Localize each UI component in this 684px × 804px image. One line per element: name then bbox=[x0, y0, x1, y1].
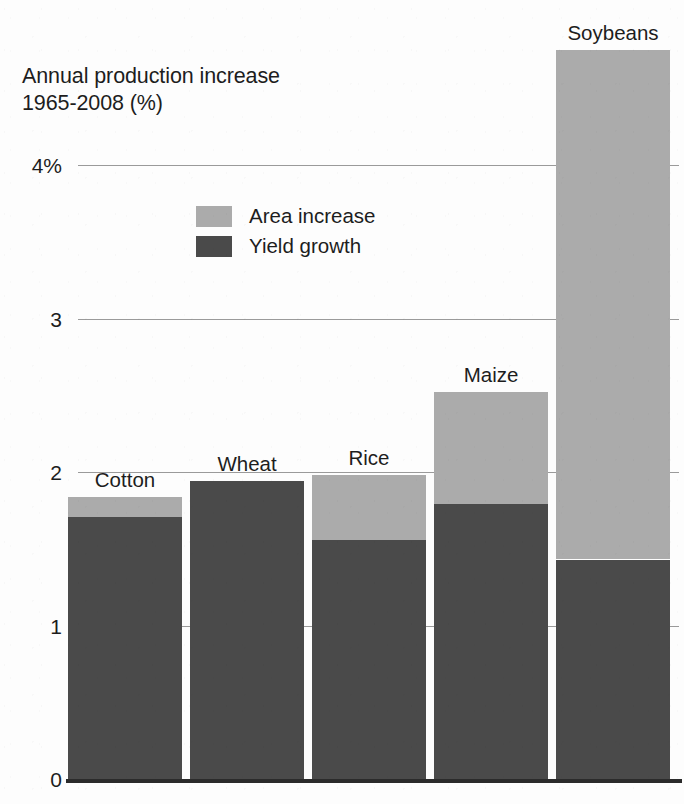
bar-segment-area-increase bbox=[68, 497, 182, 517]
bar-cotton bbox=[68, 497, 182, 779]
bar-chart-figure: Annual production increase 1965-2008 (%)… bbox=[0, 0, 684, 804]
bar-maize bbox=[434, 392, 548, 779]
bar-segment-area-increase bbox=[556, 50, 670, 560]
bar-segment-area-increase bbox=[434, 392, 548, 504]
bar-segment-yield-growth bbox=[434, 504, 548, 779]
chart-title: Annual production increase 1965-2008 (%) bbox=[22, 63, 422, 117]
chart-legend: Area increaseYield growth bbox=[196, 203, 375, 263]
y-axis-tick-label: 4% bbox=[6, 155, 62, 176]
legend-item: Yield growth bbox=[196, 233, 375, 259]
bar-rice bbox=[312, 475, 426, 779]
legend-swatch bbox=[196, 206, 232, 227]
bar-category-label-wheat: Wheat bbox=[217, 454, 276, 475]
bar-category-label-cotton: Cotton bbox=[95, 470, 155, 491]
x-axis-baseline bbox=[66, 779, 682, 783]
y-axis-tick-label: 0 bbox=[6, 769, 62, 790]
bar-soybeans bbox=[556, 50, 670, 779]
legend-item: Area increase bbox=[196, 203, 375, 229]
bar-segment-yield-growth bbox=[556, 560, 670, 780]
bar-segment-yield-growth bbox=[312, 540, 426, 779]
bar-segment-area-increase bbox=[312, 475, 426, 539]
bar-segment-yield-growth bbox=[68, 517, 182, 779]
bar-category-label-rice: Rice bbox=[348, 448, 389, 469]
legend-label: Yield growth bbox=[249, 236, 361, 257]
legend-swatch bbox=[196, 236, 232, 257]
bar-wheat bbox=[190, 481, 304, 779]
bar-category-label-maize: Maize bbox=[464, 365, 519, 386]
bar-segment-yield-growth bbox=[190, 481, 304, 779]
legend-label: Area increase bbox=[249, 206, 375, 227]
y-axis-tick-label: 1 bbox=[6, 616, 62, 637]
y-axis-tick-label: 2 bbox=[6, 462, 62, 483]
bar-category-label-soybeans: Soybeans bbox=[567, 23, 658, 44]
y-axis-tick-label: 3 bbox=[6, 309, 62, 330]
